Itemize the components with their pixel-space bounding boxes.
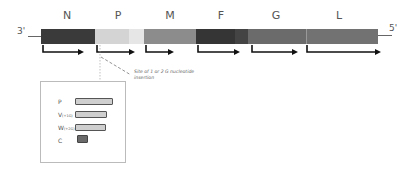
arrow-m [146, 45, 170, 52]
insertion-pointer [101, 57, 131, 75]
arrow-f [198, 45, 236, 52]
product-bar-w [75, 124, 106, 131]
arrow-p [97, 45, 131, 52]
product-label-p: P [58, 98, 62, 105]
product-bar-p [75, 98, 113, 105]
arrow-l [307, 45, 377, 52]
product-bar-v [75, 111, 107, 118]
arrow-g [252, 45, 294, 52]
product-label-v: V(+1G) [58, 111, 73, 118]
product-bar-c [77, 135, 88, 143]
product-label-w: W(+2G) [58, 124, 75, 131]
products-box [40, 81, 126, 163]
product-label-c: C [58, 137, 62, 144]
arrow-n [43, 45, 80, 52]
insertion-annotation: Site of 1 or 2 G nucleotide insertion [134, 69, 214, 81]
